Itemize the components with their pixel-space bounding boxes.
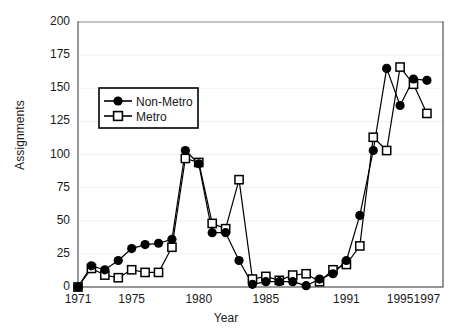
data-point-non-metro — [194, 159, 203, 168]
data-point-non-metro — [87, 261, 96, 270]
data-point-non-metro — [73, 282, 82, 291]
data-point-metro — [356, 242, 364, 250]
data-point-metro — [423, 109, 431, 117]
data-point-non-metro — [221, 228, 230, 237]
data-point-metro — [141, 268, 149, 276]
data-point-non-metro — [181, 146, 190, 155]
data-point-metro — [369, 133, 377, 141]
data-point-metro — [128, 266, 136, 274]
plot-area: Non-MetroMetro — [0, 0, 466, 334]
legend: Non-MetroMetro — [99, 88, 198, 128]
data-point-metro — [154, 268, 162, 276]
data-point-non-metro — [154, 239, 163, 248]
data-point-non-metro — [328, 269, 337, 278]
data-point-non-metro — [382, 64, 391, 73]
data-point-metro — [235, 176, 243, 184]
data-point-non-metro — [315, 274, 324, 283]
data-point-non-metro — [355, 211, 364, 220]
data-point-metro — [181, 154, 189, 162]
data-point-metro — [302, 270, 310, 278]
data-point-metro — [396, 63, 404, 71]
data-point-non-metro — [234, 256, 243, 265]
data-point-non-metro — [409, 74, 418, 83]
data-point-non-metro — [114, 256, 123, 265]
data-point-non-metro — [302, 281, 311, 290]
data-point-non-metro — [208, 228, 217, 237]
data-point-non-metro — [288, 277, 297, 286]
legend-label: Metro — [136, 110, 167, 124]
data-point-metro — [114, 274, 122, 282]
data-point-non-metro — [275, 277, 284, 286]
data-point-non-metro — [248, 280, 257, 289]
chart-figure: Assignments Year 0255075100125150175200 … — [0, 0, 466, 334]
legend-marker-open-square — [114, 112, 123, 121]
data-point-non-metro — [100, 265, 109, 274]
data-point-metro — [383, 146, 391, 154]
data-point-non-metro — [141, 240, 150, 249]
data-point-non-metro — [422, 76, 431, 85]
data-point-non-metro — [127, 244, 136, 253]
data-point-non-metro — [167, 235, 176, 244]
data-point-non-metro — [342, 256, 351, 265]
data-point-metro — [168, 243, 176, 251]
data-point-metro — [208, 219, 216, 227]
data-point-non-metro — [369, 146, 378, 155]
data-point-non-metro — [395, 101, 404, 110]
legend-label: Non-Metro — [136, 95, 193, 109]
data-point-non-metro — [261, 277, 270, 286]
legend-marker-filled-circle — [113, 96, 122, 105]
